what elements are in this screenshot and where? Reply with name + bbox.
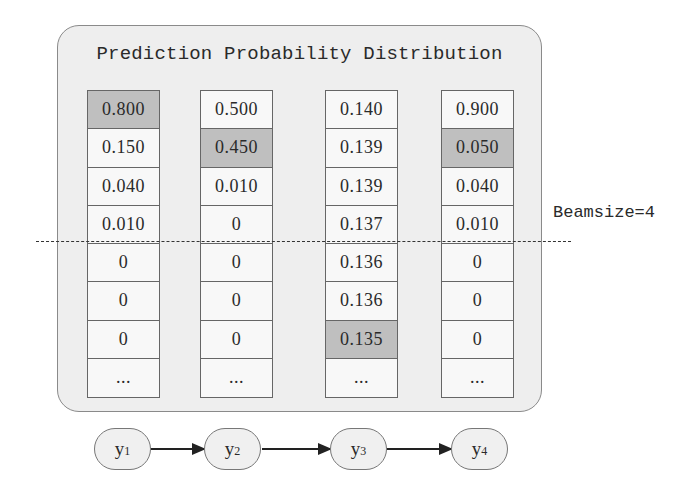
selected-probability-cell: 0.800 xyxy=(88,91,159,129)
probability-column-y1: 0.8000.1500.0400.010000... xyxy=(87,90,160,398)
selected-probability-cell: 0.450 xyxy=(201,129,272,167)
probability-cell: 0.500 xyxy=(201,91,272,129)
probability-cell: 0 xyxy=(88,282,159,320)
probability-cell: 0 xyxy=(442,244,513,282)
probability-cell: 0 xyxy=(88,244,159,282)
node-label: y xyxy=(115,438,125,460)
beam-cutoff-line xyxy=(36,241,571,242)
probability-cell: 0 xyxy=(201,206,272,244)
node-label: y xyxy=(225,438,235,460)
diagram-title: Prediction Probability Distribution xyxy=(57,43,542,65)
output-node-y4: y4 xyxy=(451,428,508,470)
arrow-icon xyxy=(387,448,451,450)
probability-cell: 0.900 xyxy=(442,91,513,129)
probability-cell: 0 xyxy=(201,282,272,320)
probability-cell: ... xyxy=(201,359,272,397)
probability-cell: 0.010 xyxy=(442,206,513,244)
selected-probability-cell: 0.135 xyxy=(326,321,397,359)
probability-cell: 0.140 xyxy=(326,91,397,129)
probability-cell: 0 xyxy=(201,244,272,282)
probability-column-y4: 0.9000.0500.0400.010000... xyxy=(441,90,514,398)
probability-cell: 0.150 xyxy=(88,129,159,167)
probability-cell: ... xyxy=(326,359,397,397)
node-subscript: 4 xyxy=(481,444,487,459)
probability-column-y2: 0.5000.4500.0100000... xyxy=(200,90,273,398)
probability-cell: 0.040 xyxy=(442,168,513,206)
probability-cell: 0 xyxy=(442,282,513,320)
probability-cell: ... xyxy=(442,359,513,397)
probability-cell: 0.137 xyxy=(326,206,397,244)
probability-cell: 0.136 xyxy=(326,244,397,282)
probability-cell: 0.139 xyxy=(326,129,397,167)
probability-cell: 0.136 xyxy=(326,282,397,320)
node-label: y xyxy=(351,438,361,460)
node-subscript: 3 xyxy=(360,444,366,459)
arrow-icon xyxy=(151,448,204,450)
probability-cell: 0.139 xyxy=(326,168,397,206)
arrow-icon xyxy=(262,448,330,450)
selected-probability-cell: 0.050 xyxy=(442,129,513,167)
probability-cell: ... xyxy=(88,359,159,397)
node-subscript: 1 xyxy=(124,444,130,459)
probability-cell: 0 xyxy=(442,321,513,359)
node-subscript: 2 xyxy=(234,444,240,459)
probability-cell: 0 xyxy=(88,321,159,359)
probability-cell: 0 xyxy=(201,321,272,359)
output-node-y1: y1 xyxy=(94,428,151,470)
output-node-y3: y3 xyxy=(330,428,387,470)
probability-cell: 0.010 xyxy=(88,206,159,244)
node-label: y xyxy=(472,438,482,460)
output-node-y2: y2 xyxy=(204,428,261,470)
probability-column-y3: 0.1400.1390.1390.1370.1360.1360.135... xyxy=(325,90,398,398)
beam-size-label: Beamsize=4 xyxy=(553,203,655,222)
probability-cell: 0.040 xyxy=(88,168,159,206)
probability-cell: 0.010 xyxy=(201,168,272,206)
